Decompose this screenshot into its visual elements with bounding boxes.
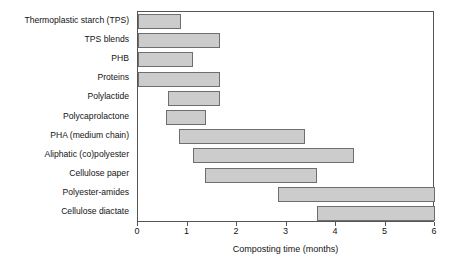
composting-time-bar-chart: Thermoplastic starch (TPS)TPS blendsPHBP… (0, 0, 451, 267)
x-axis-title: Composting time (months) (137, 244, 434, 254)
x-axis-tick-label: 3 (283, 226, 288, 236)
category-label: Thermoplastic starch (TPS) (0, 16, 129, 25)
x-axis-tick-label: 5 (382, 226, 387, 236)
bar (138, 72, 220, 87)
bar (138, 14, 181, 29)
x-axis: 0123456 (137, 222, 434, 232)
x-axis-tick-label: 2 (233, 226, 238, 236)
category-label: Polycaprolactone (0, 112, 129, 121)
x-axis-tick-label: 0 (134, 226, 139, 236)
category-label: PHB (0, 54, 129, 63)
plot-frame (137, 11, 434, 222)
bar (138, 52, 193, 67)
category-label: Cellulose paper (0, 169, 129, 178)
x-axis-tick-label: 6 (431, 226, 436, 236)
bar (166, 110, 206, 125)
bar (205, 168, 317, 183)
x-axis-tick-label: 1 (184, 226, 189, 236)
bar (278, 187, 435, 202)
bar (193, 148, 354, 163)
bar (317, 206, 435, 221)
bar (138, 33, 220, 48)
bar (168, 91, 220, 106)
category-label: Cellulose diactate (0, 207, 129, 216)
bar (179, 129, 305, 144)
category-label: Aliphatic (co)polyester (0, 150, 129, 159)
category-axis-labels: Thermoplastic starch (TPS)TPS blendsPHBP… (0, 11, 133, 222)
category-label: PHA (medium chain) (0, 131, 129, 140)
category-label: Polyester-amides (0, 188, 129, 197)
plot-area (138, 12, 433, 221)
category-label: TPS blends (0, 35, 129, 44)
category-label: Proteins (0, 73, 129, 82)
x-axis-tick-label: 4 (332, 226, 337, 236)
category-label: Polylactide (0, 92, 129, 101)
